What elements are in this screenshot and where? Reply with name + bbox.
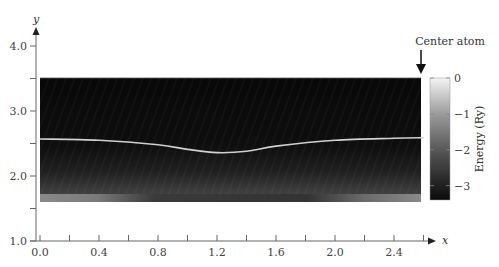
colorbar: 0−1−2−3 Energy (Ry) (430, 72, 486, 200)
x-tick-label: 2.4 (385, 246, 403, 259)
y-axis-label: y (32, 13, 40, 26)
y-axis: y 4.03.02.01.0 (10, 13, 41, 248)
x-axis: x 0.00.40.81.21.62.02.4 (30, 234, 449, 259)
y-tick-label: 2.0 (10, 170, 28, 183)
down-arrow-icon (416, 64, 426, 74)
heatmap-chart: y 4.03.02.01.0 x 0.00.40.81.21.62.02.4 C… (0, 0, 499, 267)
colorbar-tick-label: 0 (454, 72, 461, 85)
y-tick-label: 3.0 (10, 105, 28, 118)
colorbar-label: Energy (Ry) (473, 106, 486, 173)
colorbar-tick-label: −3 (454, 180, 470, 193)
center-atom-annotation: Center atom (415, 35, 485, 74)
y-tick-label: 1.0 (10, 235, 28, 248)
x-tick-label: 0.8 (149, 246, 167, 259)
x-tick-label: 0.0 (31, 246, 49, 259)
x-tick-label: 2.0 (326, 246, 344, 259)
center-atom-label: Center atom (415, 35, 485, 48)
x-tick-label: 1.2 (208, 246, 226, 259)
colorbar-tick-label: −1 (454, 108, 470, 121)
x-tick-label: 0.4 (90, 246, 108, 259)
x-tick-label: 1.6 (267, 246, 285, 259)
x-axis-arrow-icon (428, 238, 436, 245)
colorbar-tick-label: −2 (454, 144, 470, 157)
y-tick-label: 4.0 (10, 40, 28, 53)
x-axis-label: x (442, 234, 449, 247)
y-axis-arrow-icon (33, 27, 40, 35)
